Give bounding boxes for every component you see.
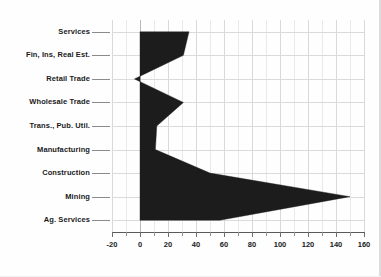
x-tick-label: 60 bbox=[209, 240, 239, 249]
x-tick-label: 40 bbox=[181, 240, 211, 249]
category-tick bbox=[92, 102, 110, 103]
category-label: Mining bbox=[65, 193, 90, 201]
x-tick-label: 20 bbox=[153, 240, 183, 249]
category-tick bbox=[92, 126, 110, 127]
category-tick bbox=[92, 220, 110, 221]
x-tick-major bbox=[308, 232, 309, 237]
category-tick bbox=[92, 173, 110, 174]
category-label: Retail Trade bbox=[46, 75, 90, 83]
category-label: Manufacturing bbox=[37, 146, 90, 154]
x-tick-label: 140 bbox=[321, 240, 351, 249]
category-tick bbox=[92, 150, 110, 151]
category-label: Wholesale Trade bbox=[29, 98, 90, 106]
x-tick-minor bbox=[322, 232, 323, 236]
x-tick-minor bbox=[266, 232, 267, 236]
x-tick-label: 0 bbox=[125, 240, 155, 249]
x-tick-major bbox=[112, 232, 113, 237]
x-tick-minor bbox=[294, 232, 295, 236]
x-tick-label: 80 bbox=[237, 240, 267, 249]
x-tick-major bbox=[196, 232, 197, 237]
x-tick-minor bbox=[126, 232, 127, 236]
x-tick-major bbox=[364, 232, 365, 237]
x-tick-minor bbox=[154, 232, 155, 236]
x-tick-major bbox=[336, 232, 337, 237]
area-series bbox=[112, 20, 364, 232]
category-label: Trans., Pub. Util. bbox=[29, 122, 90, 130]
x-tick-minor bbox=[182, 232, 183, 236]
chart-container: ServicesFin, Ins, Real Est.Retail TradeW… bbox=[0, 0, 381, 277]
category-tick bbox=[92, 79, 110, 80]
x-tick-major bbox=[280, 232, 281, 237]
category-label: Construction bbox=[42, 169, 90, 177]
x-tick-label: 120 bbox=[293, 240, 323, 249]
plot-area bbox=[112, 20, 364, 232]
x-tick-minor bbox=[238, 232, 239, 236]
x-tick-major bbox=[252, 232, 253, 237]
x-tick-label: 100 bbox=[265, 240, 295, 249]
x-tick-label: 160 bbox=[349, 240, 379, 249]
x-tick-minor bbox=[210, 232, 211, 236]
x-tick-label: -20 bbox=[97, 240, 127, 249]
category-tick bbox=[92, 32, 110, 33]
category-tick bbox=[92, 55, 110, 56]
x-tick-major bbox=[224, 232, 225, 237]
x-tick-major bbox=[140, 232, 141, 237]
x-tick-minor bbox=[350, 232, 351, 236]
category-label: Services bbox=[58, 28, 90, 36]
category-label: Fin, Ins, Real Est. bbox=[26, 51, 90, 59]
gridline-major bbox=[364, 20, 365, 232]
category-label: Ag. Services bbox=[44, 216, 90, 224]
category-tick bbox=[92, 197, 110, 198]
x-tick-major bbox=[168, 232, 169, 237]
